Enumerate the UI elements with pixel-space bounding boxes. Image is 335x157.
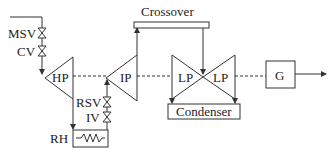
lp-left-label: LP	[178, 70, 193, 85]
crossover-pipe	[134, 22, 209, 28]
cv-label: CV	[17, 44, 36, 59]
rh-label: RH	[50, 131, 68, 146]
crossover-label: Crossover	[141, 4, 194, 19]
generator-label: G	[275, 68, 284, 83]
condenser-label: Condenser	[176, 104, 232, 119]
iv-valve-icon	[103, 112, 111, 122]
iv-label: IV	[86, 110, 100, 125]
turbine-diagram: MSV CV HP IP RH IV RSV Crossover LP	[0, 0, 335, 157]
ip-label: IP	[120, 70, 132, 85]
rsv-label: RSV	[76, 95, 102, 110]
msv-label: MSV	[8, 26, 37, 41]
hp-label: HP	[52, 70, 69, 85]
cv-valve-icon	[38, 46, 46, 56]
msv-valve-icon	[38, 28, 46, 38]
lp-right-label: LP	[213, 70, 228, 85]
rsv-valve-icon	[103, 97, 111, 107]
